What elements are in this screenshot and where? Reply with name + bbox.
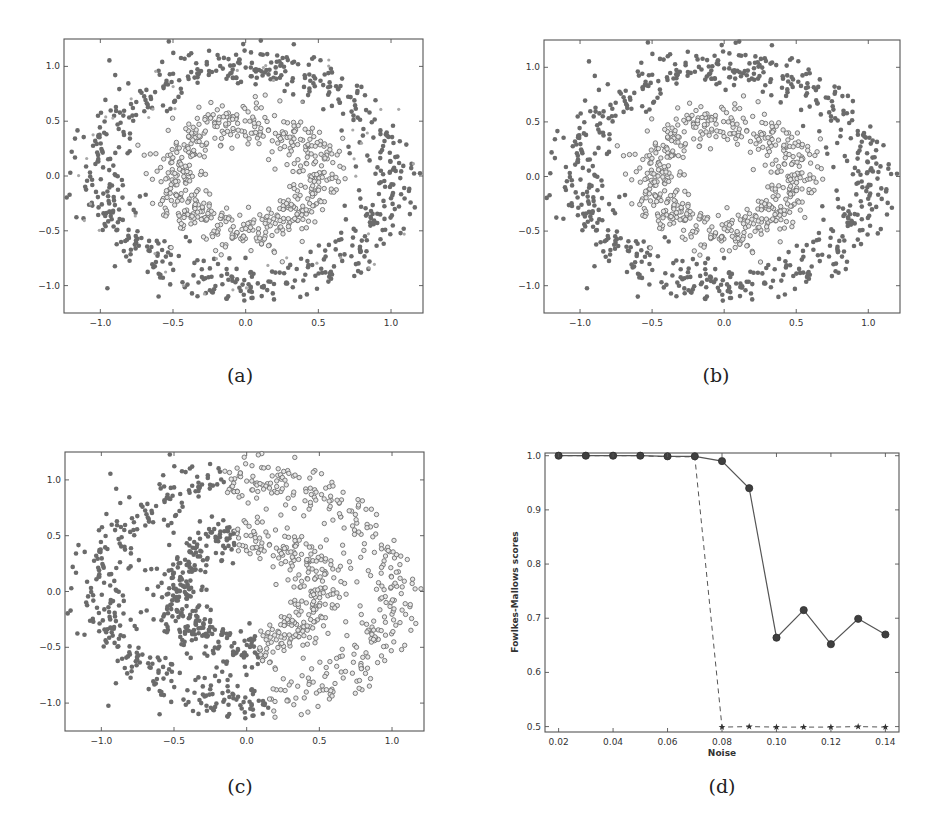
scatter-point-hollow xyxy=(279,635,283,639)
scatter-point-filled xyxy=(85,580,90,585)
scatter-point-hollow xyxy=(236,527,240,531)
scatter-point-hollow xyxy=(680,235,684,239)
scatter-point-filled xyxy=(831,229,836,234)
scatter-point-filled xyxy=(216,522,221,527)
scatter-point-hollow xyxy=(180,198,184,202)
scatter-point-hollow xyxy=(649,161,653,165)
scatter-point-hollow xyxy=(311,470,315,474)
scatter-point-filled xyxy=(282,89,287,94)
scatter-point-filled xyxy=(102,130,107,135)
scatter-point-filled xyxy=(202,651,207,656)
scatter-point-hollow xyxy=(344,620,348,624)
scatter-point-filled xyxy=(725,282,730,287)
scatter-point-filled xyxy=(328,271,333,276)
scatter-point-hollow xyxy=(175,199,179,203)
scatter-point-filled xyxy=(686,70,691,75)
scatter-point-filled xyxy=(243,710,248,715)
scatter-point-filled xyxy=(204,532,209,537)
scatter-point-hollow xyxy=(722,227,726,231)
scatter-point-hollow xyxy=(309,152,313,156)
scatter-point-filled xyxy=(208,288,213,293)
scatter-point-hollow xyxy=(289,140,293,144)
axis-ticks: −1.0−0.50.00.51.0−1.0−0.50.00.51.0 xyxy=(518,40,900,328)
scatter-point-hollow xyxy=(776,194,780,198)
scatter-point-hollow xyxy=(667,179,671,183)
scatter-point-hollow xyxy=(259,126,263,130)
scatter-point-filled xyxy=(347,151,352,156)
scatter-point-filled xyxy=(201,684,206,689)
scatter-point-filled xyxy=(109,523,114,528)
scatter-point-hollow xyxy=(743,120,747,124)
scatter-point-hollow xyxy=(227,470,231,474)
scatter-point-filled xyxy=(129,551,134,556)
scatter-point-hollow xyxy=(748,139,752,143)
scatter-point-hollow xyxy=(350,671,354,675)
scatter-point-hollow xyxy=(301,169,305,173)
scatter-point-filled xyxy=(193,489,198,494)
scatter-point-filled xyxy=(243,665,248,670)
scatter-point-hollow xyxy=(282,648,286,652)
scatter-point-hollow xyxy=(676,154,680,158)
scatter-point-hollow xyxy=(166,128,170,132)
scatter-point-filled xyxy=(860,185,865,190)
scatter-point-filled xyxy=(142,109,147,114)
scatter-point-hollow xyxy=(331,567,335,571)
scatter-point-filled xyxy=(595,220,600,225)
scatter-point-hollow xyxy=(764,217,768,221)
scatter-point-hollow xyxy=(281,677,285,681)
scatter-point-hollow xyxy=(209,100,213,104)
scatter-point-filled xyxy=(401,164,406,169)
scatter-point-filled xyxy=(177,509,182,514)
scatter-point-filled xyxy=(122,634,127,639)
scatter-point-filled xyxy=(138,660,143,665)
scatter-point-hollow xyxy=(279,688,283,692)
scatter-point-filled xyxy=(188,656,193,661)
scatter-point-filled xyxy=(418,171,423,176)
y-tick-label: 1.0 xyxy=(527,451,542,461)
scatter-point-hollow xyxy=(273,221,277,225)
scatter-point-hollow xyxy=(179,221,183,225)
scatter-point-hollow xyxy=(736,213,740,217)
scatter-point-filled xyxy=(119,240,124,245)
scatter-point-hollow xyxy=(372,550,376,554)
scatter-point-filled xyxy=(876,170,881,175)
scatter-point-filled xyxy=(805,81,810,86)
scatter-point-hollow xyxy=(389,575,393,579)
scatter-point-hollow xyxy=(342,551,346,555)
scatter-point-filled xyxy=(367,158,372,163)
scatter-point-filled xyxy=(160,595,165,600)
scatter-point-hollow xyxy=(324,665,328,669)
scatter-point-filled xyxy=(840,254,845,259)
y-tick-label: 0.8 xyxy=(527,559,542,569)
scatter-point-filled xyxy=(658,57,663,62)
scatter-point-filled xyxy=(725,289,730,294)
scatter-point-hollow xyxy=(260,541,264,545)
scatter-point-filled xyxy=(623,193,628,198)
scatter-point-filled xyxy=(694,262,699,267)
scatter-point-filled xyxy=(179,91,184,96)
scatter-point-filled xyxy=(859,199,864,204)
scatter-point-filled xyxy=(242,298,247,303)
scatter-point-filled xyxy=(391,124,396,129)
scatter-point-hollow xyxy=(278,218,282,222)
scatter-point-filled xyxy=(777,257,782,262)
scatter-point-hollow xyxy=(203,172,207,176)
scatter-point-filled xyxy=(107,58,112,63)
scatter-point-filled xyxy=(321,107,326,112)
scatter-point-hollow xyxy=(279,225,283,229)
scatter-point-hollow xyxy=(264,507,268,511)
scatter-point-filled xyxy=(190,483,195,488)
scatter-point-filled xyxy=(65,611,70,616)
scatter-point-hollow xyxy=(638,166,642,170)
scatter-point-filled xyxy=(658,91,663,96)
scatter-point-filled xyxy=(769,93,774,98)
scatter-point-hollow xyxy=(365,630,369,634)
scatter-point-filled xyxy=(241,700,246,705)
scatter-point-hollow xyxy=(702,245,706,249)
scatter-point-hollow xyxy=(773,143,777,147)
scatter-point-filled xyxy=(697,65,702,70)
scatter-point-hollow xyxy=(302,620,306,624)
scatter-point-filled xyxy=(830,99,835,104)
scatter-point-filled xyxy=(162,239,167,244)
scatter-point-filled xyxy=(112,198,117,203)
